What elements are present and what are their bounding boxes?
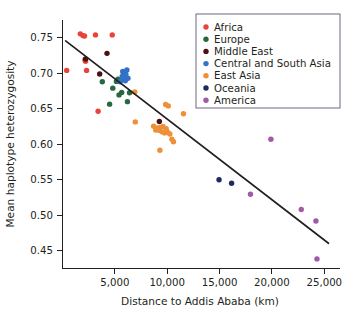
data-point: [84, 68, 89, 73]
data-point: [100, 79, 105, 84]
data-point: [171, 139, 176, 144]
data-point: [125, 99, 130, 104]
y-tick-label: 0.70: [30, 68, 53, 79]
data-point: [107, 101, 112, 106]
x-axis-title: Distance to Addis Ababa (km): [121, 295, 279, 307]
data-point: [157, 148, 162, 153]
y-tick-label: 0.45: [30, 245, 53, 256]
legend-swatch: [203, 24, 208, 29]
y-tick-label: 0.60: [30, 139, 53, 150]
x-tick-label: 15,000: [202, 277, 238, 288]
data-point: [97, 71, 102, 76]
data-point: [229, 181, 234, 186]
x-tick-label: 20,000: [254, 277, 290, 288]
data-point: [82, 33, 87, 38]
data-point: [123, 78, 128, 83]
data-point: [181, 111, 186, 116]
x-tick-label: 10,000: [149, 277, 185, 288]
data-point: [133, 119, 138, 124]
legend-label: Middle East: [214, 46, 273, 57]
legend-swatch: [203, 73, 208, 78]
data-point: [299, 207, 304, 212]
data-point: [314, 256, 319, 261]
legend: AfricaEuropeMiddle EastCentral and South…: [196, 14, 340, 108]
data-point: [167, 131, 172, 136]
y-tick-label: 0.65: [30, 103, 53, 114]
x-axis-ticks: 5,00010,00015,00020,00025,000: [100, 269, 342, 289]
series-america: [248, 137, 320, 262]
plot-svg: 0.450.500.550.600.650.700.75 5,00010,000…: [0, 0, 349, 319]
legend-swatch: [203, 49, 208, 54]
x-tick-label: 25,000: [306, 277, 342, 288]
y-axis-ticks: 0.450.500.550.600.650.700.75: [30, 32, 62, 256]
data-point: [104, 51, 109, 56]
y-tick-label: 0.75: [30, 32, 53, 43]
data-point: [93, 32, 98, 37]
legend-label: Central and South Asia: [214, 58, 331, 69]
legend-label: America: [214, 95, 256, 106]
legend-swatch: [203, 98, 208, 103]
data-point: [166, 103, 171, 108]
y-tick-label: 0.55: [30, 174, 53, 185]
data-point: [64, 68, 69, 73]
data-point: [268, 137, 273, 142]
data-point: [157, 119, 162, 124]
legend-label: Africa: [214, 22, 243, 33]
series-oceania: [216, 177, 234, 186]
legend-label: Oceania: [214, 83, 256, 94]
legend-swatch: [203, 85, 208, 90]
data-point: [313, 218, 318, 223]
y-tick-label: 0.50: [30, 210, 53, 221]
data-point: [248, 192, 253, 197]
legend-swatch: [203, 37, 208, 42]
x-tick-label: 5,000: [100, 277, 129, 288]
data-point: [110, 85, 115, 90]
data-point: [116, 92, 121, 97]
y-axis-title: Mean haplotype heterozygosity: [4, 60, 16, 227]
legend-label: East Asia: [214, 70, 261, 81]
legend-swatch: [203, 61, 208, 66]
data-point: [216, 177, 221, 182]
scatter-chart: 0.450.500.550.600.650.700.75 5,00010,000…: [0, 0, 349, 319]
legend-label: Europe: [214, 34, 250, 45]
data-point: [95, 109, 100, 114]
data-point: [110, 32, 115, 37]
series-middle-east: [83, 51, 162, 125]
